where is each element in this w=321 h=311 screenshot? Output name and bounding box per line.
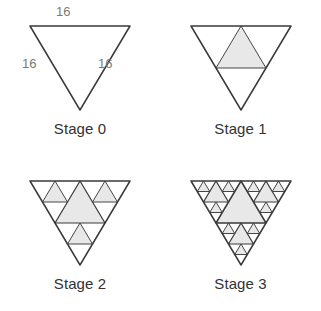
stage-3-label: Stage 3 bbox=[214, 275, 266, 292]
stage-0-side-label-top: 16 bbox=[56, 4, 70, 19]
stage-0-side-label-right: 16 bbox=[98, 56, 112, 71]
stage-cell-1: Stage 1 bbox=[160, 0, 321, 155]
stage-cell-2: Stage 2 bbox=[0, 155, 160, 311]
stage-grid: 16 16 16 Stage 0 Stage 1 Stage 2 Stage 3 bbox=[0, 0, 321, 311]
stage-3-diagram bbox=[185, 173, 297, 269]
stage-2-diagram bbox=[24, 173, 136, 269]
stage-2-label: Stage 2 bbox=[54, 275, 106, 292]
stage-0-diagram bbox=[24, 18, 136, 114]
stage-cell-0: 16 16 16 Stage 0 bbox=[0, 0, 160, 155]
stage-0-side-label-left: 16 bbox=[22, 56, 36, 71]
stage-0-label: Stage 0 bbox=[54, 120, 106, 137]
stage-cell-3: Stage 3 bbox=[160, 155, 321, 311]
sierpinski-stage-figure: 16 16 16 Stage 0 Stage 1 Stage 2 Stage 3 bbox=[0, 0, 321, 311]
stage-1-label: Stage 1 bbox=[214, 120, 266, 137]
stage-1-diagram bbox=[185, 18, 297, 114]
